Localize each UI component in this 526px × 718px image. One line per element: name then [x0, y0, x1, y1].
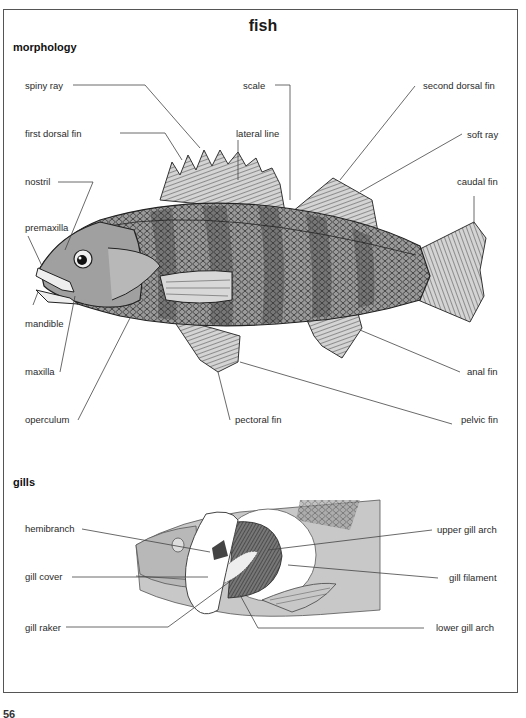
- fish-illustration: [0, 0, 526, 718]
- label-anal-fin: anal fin: [467, 366, 498, 377]
- label-upper-gill-arch: upper gill arch: [437, 524, 497, 535]
- label-scale: scale: [243, 80, 265, 91]
- label-lower-gill-arch: lower gill arch: [436, 622, 494, 633]
- label-pectoral-fin: pectoral fin: [235, 414, 281, 425]
- label-lateral-line: lateral line: [236, 128, 279, 139]
- label-caudal-fin: caudal fin: [457, 176, 498, 187]
- label-gill-cover: gill cover: [25, 571, 63, 582]
- label-mandible: mandible: [25, 318, 64, 329]
- label-gill-raker: gill raker: [25, 622, 61, 633]
- label-nostril: nostril: [25, 176, 50, 187]
- label-gill-filament: gill filament: [449, 572, 497, 583]
- label-maxilla: maxilla: [25, 366, 55, 377]
- label-operculum: operculum: [25, 414, 69, 425]
- page-number: 56: [3, 708, 15, 718]
- label-spiny-ray: spiny ray: [25, 80, 63, 91]
- label-premaxilla: premaxilla: [25, 222, 68, 233]
- label-soft-ray: soft ray: [467, 129, 498, 140]
- label-pelvic-fin: pelvic fin: [461, 414, 498, 425]
- label-first-dorsal-fin: first dorsal fin: [25, 128, 82, 139]
- label-second-dorsal-fin: second dorsal fin: [423, 80, 495, 91]
- label-hemibranch: hemibranch: [25, 523, 75, 534]
